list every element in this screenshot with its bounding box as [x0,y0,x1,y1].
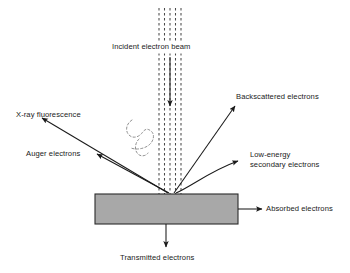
label-transmitted-electrons: Transmitted electrons [120,253,194,263]
backscattered-electrons-arrow [174,106,235,193]
interaction-volume-outline [127,120,154,156]
label-low-energy-secondary-electrons-line2: secondary electrons [250,160,319,170]
diagram-canvas [0,0,350,273]
label-low-energy-secondary-electrons-line1: Low-energy [250,150,290,160]
auger-electrons-arrow [97,154,169,193]
label-backscattered-electrons: Backscattered electrons [236,92,319,102]
electron-interaction-diagram: Incident electron beam X-ray fluorescenc… [0,0,350,273]
label-absorbed-electrons: Absorbed electrons [266,204,333,214]
label-auger-electrons: Auger electrons [26,149,80,159]
specimen-block [95,194,238,224]
label-xray-fluorescence: X-ray fluorescence [16,110,81,120]
label-incident-electron-beam: Incident electron beam [112,42,191,52]
